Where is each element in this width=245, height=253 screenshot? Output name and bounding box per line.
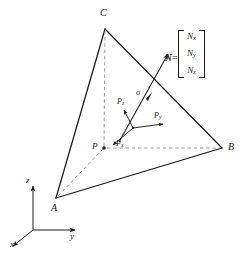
nz-sub: z — [193, 68, 196, 75]
label-px: Px — [116, 140, 123, 149]
label-sigma: σ — [136, 89, 140, 97]
normal-components-matrix: Nx Ny Nz — [178, 30, 205, 78]
edge-a-b — [56, 148, 222, 198]
axis-label-z: z — [26, 176, 30, 185]
nx-sub: x — [193, 34, 196, 41]
matrix-row-ny: Ny — [187, 49, 196, 59]
vertex-label-b: B — [228, 142, 234, 152]
label-px-sub: x — [121, 142, 124, 148]
normal-vector-label: N= — [165, 54, 177, 64]
matrix-row-nx: Nx — [187, 32, 196, 42]
sigma-arrowhead — [146, 92, 152, 101]
matrix-bracket-right — [199, 30, 205, 78]
vertex-label-a: A — [51, 203, 57, 213]
ny-sub: y — [193, 51, 196, 58]
normal-symbol: N — [165, 53, 172, 63]
label-pz: Pz — [117, 98, 124, 107]
dashed-a-to-p — [58, 149, 103, 196]
dashed-c-to-p — [104, 31, 105, 146]
point-label-p: P — [92, 142, 98, 151]
axis-label-x: x — [10, 240, 14, 249]
matrix-column: Nx Ny Nz — [184, 30, 199, 78]
label-pz-sub: z — [122, 100, 124, 106]
normal-equals: = — [172, 53, 177, 63]
normal-vector-arrow — [119, 54, 168, 142]
normal-vector-line — [119, 54, 168, 142]
vector-py — [133, 124, 163, 128]
label-py-sub: y — [159, 114, 162, 120]
axis-label-y: y — [70, 232, 74, 241]
label-py: Py — [154, 112, 161, 121]
vertex-label-c: C — [100, 8, 107, 18]
tetrahedron-diagram — [0, 0, 245, 253]
point-p-marker — [102, 146, 105, 149]
matrix-row-nz: Nz — [187, 66, 196, 76]
axis-x — [13, 230, 33, 246]
